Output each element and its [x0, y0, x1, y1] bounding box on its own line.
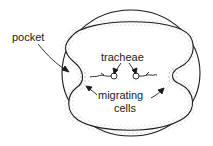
- label-pocket: pocket: [12, 31, 44, 43]
- stipple-right-cluster: [167, 67, 177, 85]
- label-tracheae: tracheae: [101, 51, 144, 63]
- pocket-arrowhead: [62, 66, 69, 72]
- cross-section-diagram: [0, 0, 213, 146]
- label-cells: cells: [114, 102, 136, 114]
- label-migrating: migrating: [98, 89, 143, 101]
